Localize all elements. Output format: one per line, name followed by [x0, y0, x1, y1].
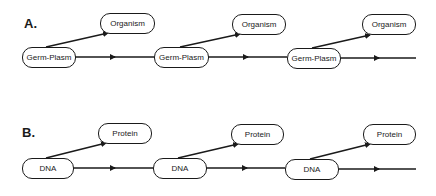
protein-node-1: Protein — [98, 123, 152, 144]
organism-node-2: Organism — [232, 14, 286, 35]
panel-a-branch-arrows — [46, 33, 370, 48]
protein-node-2: Protein — [231, 124, 284, 145]
dna-node-3: DNA — [285, 159, 339, 180]
germ-plasm-node-1: Germ-Plasm — [22, 47, 76, 68]
protein-node-3: Protein — [363, 124, 416, 145]
panel-a-label: A. — [24, 16, 37, 31]
panel-b-label: B. — [22, 125, 35, 140]
dna-node-1: DNA — [22, 158, 74, 179]
germ-plasm-node-3: Germ-Plasm — [287, 48, 341, 69]
germ-plasm-node-2: Germ-Plasm — [154, 47, 209, 68]
organism-node-1: Organism — [100, 13, 155, 34]
panel-b-lineage-line — [73, 168, 416, 169]
panel-b-branch-arrows — [46, 143, 370, 159]
dna-node-2: DNA — [153, 158, 207, 179]
panel-a-lineage-line — [75, 57, 416, 58]
organism-node-3: Organism — [362, 14, 416, 35]
